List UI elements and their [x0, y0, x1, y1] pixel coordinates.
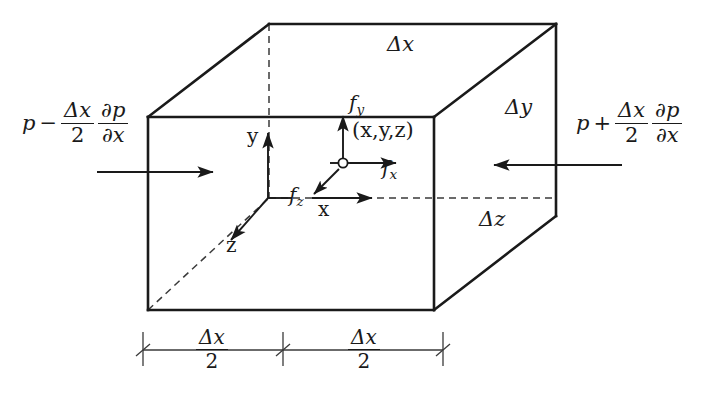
dimension-right-denominator: 2 — [348, 350, 380, 372]
pressure-right-base: p — [576, 113, 589, 134]
dimension-left-numerator: Δx — [196, 327, 228, 350]
pressure-left-base: p — [22, 113, 35, 134]
pressure-right-denominator: 2 — [615, 124, 648, 147]
dimension-left-fraction: Δx 2 — [196, 327, 228, 372]
force-z-subscript: z — [296, 193, 303, 209]
axis-z-line — [231, 198, 268, 240]
point-marker-circle — [338, 158, 347, 167]
force-z-arrow — [314, 169, 339, 194]
label-dimension-right: Δx 2 — [348, 327, 380, 372]
label-pressure-left: p − Δx 2 ∂p ∂x — [22, 100, 128, 147]
pressure-left-partial: ∂p ∂x — [98, 100, 128, 147]
label-axis-x: x — [318, 199, 329, 219]
force-y-subscript: y — [356, 101, 364, 117]
label-pressure-right: p + Δx 2 ∂p ∂x — [576, 100, 682, 147]
label-dimension-left: Δx 2 — [196, 327, 228, 372]
pressure-left-partial-denominator: ∂x — [98, 124, 128, 147]
box-visible-edges — [148, 24, 556, 310]
pressure-right-partial-denominator: ∂x — [652, 124, 682, 147]
label-force-y: fy — [349, 93, 364, 117]
label-force-z: fz — [289, 185, 304, 209]
pressure-left-partial-numerator: ∂p — [98, 100, 128, 124]
dimension-left-denominator: 2 — [196, 350, 228, 372]
label-point-coordinates: (x,y,z) — [352, 120, 414, 141]
label-delta-z-right: Δz — [479, 209, 505, 230]
pressure-left-fraction: Δx 2 — [61, 100, 94, 147]
pressure-right-fraction: Δx 2 — [615, 100, 648, 147]
pressure-left-operator: − — [39, 113, 57, 134]
label-delta-y-right: Δy — [505, 97, 532, 118]
pressure-right-partial-numerator: ∂p — [652, 100, 682, 124]
label-delta-x-top: Δx — [387, 34, 414, 55]
force-x-subscript: x — [389, 166, 397, 182]
pressure-right-numerator: Δx — [615, 100, 648, 124]
label-force-x: fx — [382, 158, 397, 182]
label-axis-z: z — [226, 235, 237, 255]
pressure-right-partial: ∂p ∂x — [652, 100, 682, 147]
pressure-right-operator: + — [593, 113, 611, 134]
label-axis-y: y — [247, 126, 258, 146]
dimension-right-numerator: Δx — [348, 327, 380, 350]
pressure-left-numerator: Δx — [61, 100, 94, 124]
pressure-gradient-diagram: p − Δx 2 ∂p ∂x p + Δx 2 ∂p ∂x Δx Δy Δz f… — [0, 0, 709, 405]
pressure-left-denominator: 2 — [61, 124, 94, 147]
pressure-arrows — [97, 165, 622, 172]
box-hidden-edges — [148, 24, 556, 310]
dimension-right-fraction: Δx 2 — [348, 327, 380, 372]
dimension-line — [136, 332, 450, 366]
